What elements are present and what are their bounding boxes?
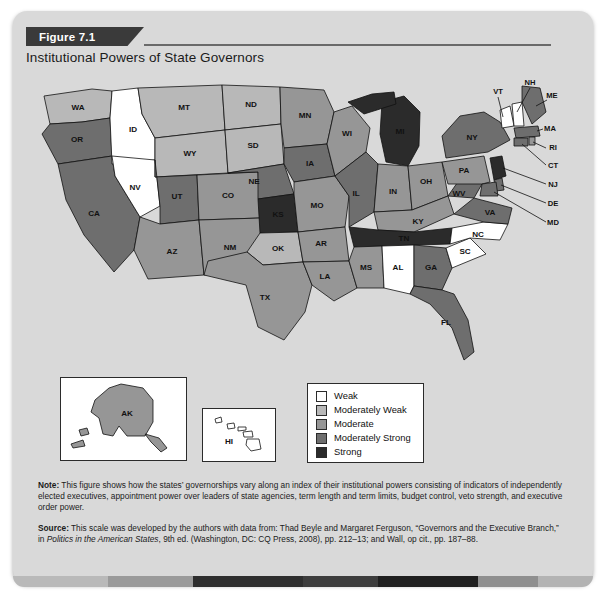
state-label-RI: RI bbox=[549, 143, 557, 152]
state-label-UT: UT bbox=[172, 192, 183, 201]
source-italic-title: Politics in the American States bbox=[47, 534, 159, 544]
legend-label-moderate: Moderate bbox=[334, 419, 374, 428]
state-label-TN: TN bbox=[399, 234, 410, 243]
legend-item-strong: Strong bbox=[308, 445, 423, 459]
note-paragraph: Note: This figure shows how the states’ … bbox=[38, 480, 566, 514]
legend-swatch-weak bbox=[316, 391, 327, 402]
state-label-NE: NE bbox=[248, 177, 260, 186]
legend-item-moderately-strong: Moderately Strong bbox=[308, 431, 423, 445]
state-label-ME: ME bbox=[546, 91, 557, 100]
state-label-CT: CT bbox=[548, 161, 558, 170]
source-text-part2: , 9th ed. (Washington, DC: CQ Press, 200… bbox=[159, 534, 478, 544]
legend-label-moderately-weak: Moderately Weak bbox=[334, 405, 407, 414]
spine-bar bbox=[193, 576, 303, 587]
state-MA bbox=[514, 126, 540, 138]
figure-number-banner: Figure 7.1 bbox=[26, 27, 144, 46]
state-label-CO: CO bbox=[222, 191, 234, 200]
note-text: This figure shows how the states’ govern… bbox=[38, 480, 562, 512]
legend-swatch-moderate bbox=[316, 419, 327, 430]
state-label-NM: NM bbox=[224, 243, 237, 252]
figure-title: Institutional Powers of State Governors bbox=[26, 50, 506, 65]
spine-bar bbox=[538, 576, 593, 587]
state-NH bbox=[512, 102, 524, 126]
alaska-panhandle bbox=[145, 434, 167, 452]
state-label-NH: NH bbox=[525, 78, 536, 87]
state-label-DE: DE bbox=[548, 199, 559, 208]
state-label-MO: MO bbox=[310, 201, 323, 210]
leader-CT bbox=[522, 144, 546, 165]
header-divider bbox=[144, 44, 551, 46]
state-label-VA: VA bbox=[485, 208, 496, 217]
state-label-CA: CA bbox=[88, 209, 100, 218]
us-choropleth-map: WA OR CA ID NV MT WY UT CO AZ NM ND SD N… bbox=[22, 72, 567, 372]
legend-label-strong: Strong bbox=[334, 447, 362, 456]
legend-item-moderately-weak: Moderately Weak bbox=[308, 403, 423, 417]
state-label-AL: AL bbox=[393, 263, 404, 272]
state-label-HI: HI bbox=[225, 437, 233, 446]
state-label-MN: MN bbox=[299, 111, 312, 120]
legend-swatch-moderately-strong bbox=[316, 433, 327, 444]
state-label-AK: AK bbox=[121, 409, 133, 418]
state-label-MD: MD bbox=[547, 218, 559, 227]
state-label-WI: WI bbox=[342, 129, 352, 138]
state-label-IN: IN bbox=[389, 187, 397, 196]
spine-bar bbox=[378, 576, 478, 587]
legend-label-weak: Weak bbox=[334, 391, 358, 400]
hawaii-oahu bbox=[227, 423, 235, 429]
state-label-NY: NY bbox=[466, 133, 478, 142]
alaska-aleutians-1 bbox=[79, 428, 89, 436]
alaska-inset: AK bbox=[60, 377, 187, 461]
state-label-ID: ID bbox=[129, 125, 137, 134]
hawaii-bigisland bbox=[246, 439, 261, 451]
state-ME bbox=[522, 86, 546, 124]
state-label-TX: TX bbox=[260, 293, 271, 302]
state-label-GA: GA bbox=[425, 263, 437, 272]
state-MD bbox=[480, 182, 498, 196]
legend-swatch-strong bbox=[316, 447, 327, 458]
hawaii-molokai bbox=[238, 427, 246, 431]
hawaii-inset: HI bbox=[202, 408, 276, 462]
state-label-LA: LA bbox=[320, 272, 331, 281]
source-paragraph: Source: This scale was developed by the … bbox=[38, 523, 566, 545]
state-VA bbox=[454, 198, 512, 224]
state-label-AR: AR bbox=[315, 239, 327, 248]
state-label-KS: KS bbox=[272, 210, 284, 219]
state-label-OK: OK bbox=[272, 244, 284, 253]
figure-footnotes: Note: This figure shows how the states’ … bbox=[38, 480, 566, 554]
state-label-NJ: NJ bbox=[548, 180, 558, 189]
state-label-MT: MT bbox=[178, 103, 190, 112]
state-label-FL: FL bbox=[441, 318, 451, 327]
figure-number-label: Figure 7.1 bbox=[26, 31, 95, 43]
state-label-WY: WY bbox=[183, 149, 197, 158]
state-label-NC: NC bbox=[472, 230, 484, 239]
state-label-SD: SD bbox=[247, 141, 258, 150]
map-legend: Weak Moderately Weak Moderate Moderately… bbox=[307, 383, 424, 463]
state-CT bbox=[514, 138, 528, 146]
page-spine bbox=[13, 576, 593, 587]
state-label-WA: WA bbox=[71, 103, 84, 112]
state-label-MA: MA bbox=[544, 124, 556, 133]
state-label-VT: VT bbox=[493, 87, 503, 96]
state-VT bbox=[500, 106, 514, 128]
leader-NJ bbox=[503, 168, 546, 184]
spine-bar bbox=[13, 576, 108, 587]
note-label: Note: bbox=[38, 480, 59, 490]
state-label-ND: ND bbox=[245, 100, 257, 109]
state-TX bbox=[204, 252, 312, 340]
state-RI bbox=[529, 137, 535, 145]
legend-label-moderately-strong: Moderately Strong bbox=[334, 433, 411, 442]
state-label-KY: KY bbox=[412, 217, 424, 226]
state-label-MI: MI bbox=[396, 127, 405, 136]
state-shapes bbox=[42, 85, 546, 360]
state-label-MS: MS bbox=[360, 263, 373, 272]
state-label-IA: IA bbox=[306, 159, 314, 168]
source-label: Source: bbox=[38, 523, 69, 533]
figure-page: Figure 7.1 Institutional Powers of State… bbox=[0, 0, 606, 607]
state-label-WV: WV bbox=[452, 189, 466, 198]
hawaii-maui bbox=[243, 431, 253, 437]
state-label-IL: IL bbox=[352, 189, 359, 198]
alaska-aleutians-2 bbox=[71, 440, 85, 448]
spine-bar bbox=[108, 576, 193, 587]
spine-bar bbox=[478, 576, 538, 587]
legend-item-moderate: Moderate bbox=[308, 417, 423, 431]
